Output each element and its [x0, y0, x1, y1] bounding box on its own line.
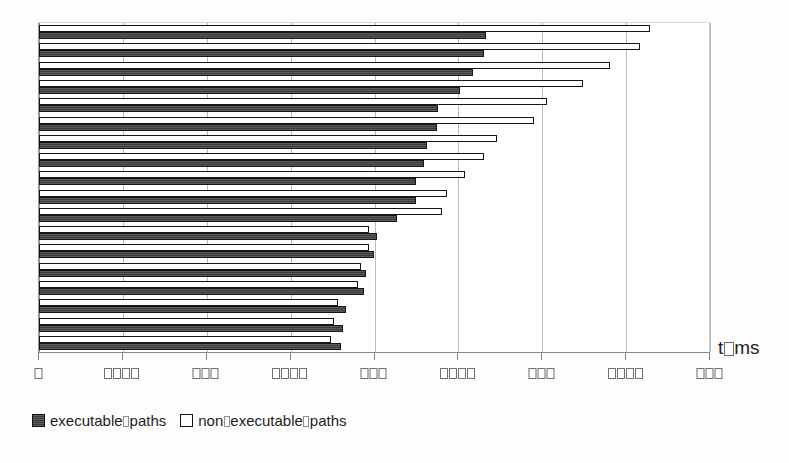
- bar-executable-paths: [39, 32, 486, 39]
- bar-group: [39, 297, 710, 315]
- bar-non-executable-paths: [39, 43, 640, 50]
- gridline-8000: [710, 23, 711, 352]
- legend-label-non-executable-paths: nonexecutablepaths: [198, 411, 346, 430]
- x-tick-label-box-icon: [131, 368, 139, 379]
- bar-executable-paths: [39, 69, 473, 76]
- x-tick-label-2000: [192, 366, 219, 382]
- x-axis-title: tms: [718, 337, 760, 359]
- bar-non-executable-paths: [39, 62, 610, 69]
- x-tick-label-box-icon: [193, 368, 201, 379]
- bar-group: [39, 242, 710, 260]
- legend-label-box-icon: [224, 416, 230, 427]
- plot-area: [38, 22, 710, 352]
- x-tick-label-box-icon: [202, 368, 210, 379]
- legend-label-box-icon: [123, 416, 129, 427]
- x-tick-label-box-icon: [449, 368, 457, 379]
- x-tick-label-box-icon: [281, 368, 289, 379]
- x-tick-label-box-icon: [626, 368, 634, 379]
- x-tick-label-box-icon: [714, 368, 722, 379]
- x-tick-label-box-icon: [299, 368, 307, 379]
- x-tick-label-box-icon: [290, 368, 298, 379]
- bar-executable-paths: [39, 197, 416, 204]
- x-tick-label-8000: [696, 366, 723, 382]
- x-tick-label-box-icon: [272, 368, 280, 379]
- x-tick-label-box-icon: [635, 368, 643, 379]
- bar-executable-paths: [39, 87, 460, 94]
- x-tick-label-box-icon: [211, 368, 219, 379]
- bar-executable-paths: [39, 343, 341, 350]
- bar-executable-paths: [39, 50, 484, 57]
- bar-executable-paths: [39, 288, 364, 295]
- chart-legend: executablepaths nonexecutablepaths: [32, 411, 347, 430]
- bar-non-executable-paths: [39, 263, 361, 270]
- x-tick-label-box-icon: [361, 368, 369, 379]
- x-tick-label-box-icon: [122, 368, 130, 379]
- bar-group: [39, 133, 710, 151]
- x-tick-mark-4000: [374, 353, 375, 360]
- bar-non-executable-paths: [39, 153, 484, 160]
- x-tick-label-box-icon: [537, 368, 545, 379]
- x-tick-label-7000: [607, 366, 643, 382]
- legend-label-box-icon: [303, 416, 309, 427]
- x-tick-label-6000: [528, 366, 555, 382]
- legend-swatch-non-executable-paths-icon: [180, 414, 193, 427]
- x-tick-label-box-icon: [467, 368, 475, 379]
- x-tick-mark-7000: [625, 353, 626, 360]
- bar-group: [39, 261, 710, 279]
- bar-group: [39, 279, 710, 297]
- bar-executable-paths: [39, 325, 343, 332]
- bars-layer: [39, 23, 710, 352]
- bar-group: [39, 334, 710, 352]
- x-tick-mark-6000: [541, 353, 542, 360]
- legend-label-executable-paths: executablepaths: [50, 411, 166, 430]
- bar-executable-paths: [39, 270, 366, 277]
- legend-entry-executable-paths: executablepaths: [32, 411, 166, 430]
- bar-group: [39, 315, 710, 333]
- bar-group: [39, 169, 710, 187]
- x-tick-label-box-icon: [440, 368, 448, 379]
- bar-group: [39, 224, 710, 242]
- bar-non-executable-paths: [39, 98, 547, 105]
- x-tick-mark-2000: [206, 353, 207, 360]
- bar-non-executable-paths: [39, 135, 497, 142]
- bar-executable-paths: [39, 105, 438, 112]
- x-tick-label-3000: [272, 366, 308, 382]
- x-tick-label-box-icon: [458, 368, 466, 379]
- x-tick-label-1000: [104, 366, 140, 382]
- x-tick-label-box-icon: [546, 368, 554, 379]
- bar-group: [39, 206, 710, 224]
- bar-group: [39, 41, 710, 59]
- bar-non-executable-paths: [39, 208, 442, 215]
- bar-executable-paths: [39, 124, 437, 131]
- bar-non-executable-paths: [39, 117, 534, 124]
- bar-group: [39, 78, 710, 96]
- bar-executable-paths: [39, 215, 397, 222]
- bar-executable-paths: [39, 251, 374, 258]
- x-tick-label-box-icon: [617, 368, 625, 379]
- bar-executable-paths: [39, 233, 377, 240]
- bar-non-executable-paths: [39, 299, 338, 306]
- bar-non-executable-paths: [39, 244, 369, 251]
- bar-group: [39, 151, 710, 169]
- x-tick-mark-3000: [290, 353, 291, 360]
- x-tick-mark-5000: [457, 353, 458, 360]
- x-tick-label-box-icon: [608, 368, 616, 379]
- x-tick-label-box-icon: [113, 368, 121, 379]
- x-tick-mark-1000: [122, 353, 123, 360]
- bar-group: [39, 96, 710, 114]
- bar-non-executable-paths: [39, 25, 650, 32]
- x-tick-label-5000: [439, 366, 475, 382]
- x-tick-label-box-icon: [528, 368, 536, 379]
- x-tick-label-box-icon: [34, 368, 42, 379]
- x-tick-label-box-icon: [104, 368, 112, 379]
- x-tick-label-box-icon: [705, 368, 713, 379]
- bar-executable-paths: [39, 160, 424, 167]
- bar-executable-paths: [39, 142, 427, 149]
- x-tick-mark-0: [38, 353, 39, 360]
- bar-non-executable-paths: [39, 190, 447, 197]
- x-tick-label-box-icon: [696, 368, 704, 379]
- axis-title-box-icon: [724, 342, 734, 356]
- bar-non-executable-paths: [39, 318, 334, 325]
- bar-executable-paths: [39, 306, 346, 313]
- x-tick-label-0: [34, 366, 43, 382]
